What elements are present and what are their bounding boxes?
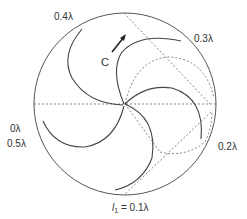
arc-right [125,87,201,139]
label-l1-value: = 0.1λ [118,202,148,213]
arc-top-left [68,29,123,105]
label-l1: l1 = 0.1λ [112,203,148,214]
diag-right-to-bottom [124,112,211,195]
arc-left [43,106,124,147]
label-0-3-lambda: 0.3λ [194,34,213,44]
arc-top-right [116,38,181,104]
diag-center-down [125,104,160,152]
label-point-c: C [101,57,109,68]
label-0-4-lambda: 0.4λ [54,12,73,22]
label-0-5-lambda: 0.5λ [7,139,26,149]
diag-top-to-right [124,13,210,104]
label-0-2-lambda: 0.2λ [218,142,237,152]
spiral-arcs [43,29,201,190]
dashed-arc-upper [125,57,214,104]
label-0-lambda: 0λ [10,124,21,134]
